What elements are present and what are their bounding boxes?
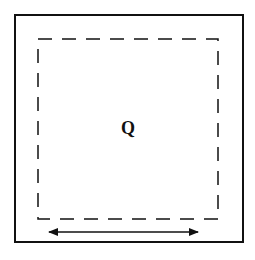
center-label: Q: [121, 118, 135, 138]
diagram-canvas: Q: [0, 0, 255, 260]
